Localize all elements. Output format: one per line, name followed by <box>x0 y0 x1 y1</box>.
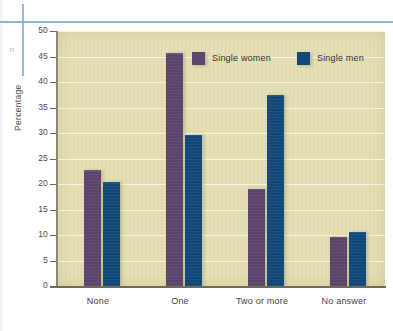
y-axis-title: Percentage <box>13 85 23 131</box>
y-axis-tick <box>50 159 56 160</box>
y-axis-tick-label: 50 <box>4 26 48 35</box>
y-axis-tick-label: 45 <box>4 52 48 61</box>
x-axis-label: One <box>139 296 221 306</box>
x-axis-label: No answer <box>303 296 385 306</box>
chart-legend: Single womenSingle men <box>192 48 364 68</box>
bar-single-women <box>330 237 347 286</box>
y-axis-tick-label: 30 <box>4 128 48 137</box>
y-axis-tick-labels: 05101520253035404550 <box>0 0 48 331</box>
legend-swatch-single-men <box>297 52 310 65</box>
y-axis-tick <box>50 31 56 32</box>
legend-label: Single women <box>212 53 271 63</box>
x-axis-label: Two or more <box>221 296 303 306</box>
legend-item: Single men <box>297 52 364 65</box>
y-axis-tick <box>50 235 56 236</box>
bar-single-men <box>349 232 366 286</box>
y-axis-tick-label: 40 <box>4 77 48 86</box>
y-axis-tick-label: 15 <box>4 205 48 214</box>
bar-single-men <box>185 135 202 286</box>
legend-swatch-single-women <box>192 52 205 65</box>
y-axis-tick <box>50 108 56 109</box>
y-axis-tick <box>50 184 56 185</box>
y-axis-tick <box>50 82 56 83</box>
y-axis-line <box>56 31 58 286</box>
legend-item: Single women <box>192 52 271 65</box>
bar-group <box>84 31 120 286</box>
bar-group <box>166 31 202 286</box>
bar-single-women <box>248 189 265 286</box>
bar-chart: 05101520253035404550 Percentage NoneOneT… <box>0 0 393 331</box>
x-axis-line <box>50 286 386 288</box>
x-axis-label: None <box>57 296 139 306</box>
bar-single-men <box>103 182 120 286</box>
bar-single-men <box>267 95 284 286</box>
bar-single-women <box>84 170 101 286</box>
y-axis-tick-label: 20 <box>4 179 48 188</box>
y-axis-tick-label: 35 <box>4 103 48 112</box>
bar-group <box>330 31 366 286</box>
bar-single-women <box>166 53 183 286</box>
y-axis-tick-label: 5 <box>4 256 48 265</box>
y-axis-tick <box>50 286 56 287</box>
plot-area <box>57 31 385 286</box>
y-axis-tick <box>50 210 56 211</box>
y-axis-tick-label: 25 <box>4 154 48 163</box>
y-axis-tick-label: 10 <box>4 230 48 239</box>
bar-group <box>248 31 284 286</box>
legend-label: Single men <box>317 53 364 63</box>
y-axis-tick <box>50 133 56 134</box>
y-axis-tick <box>50 57 56 58</box>
y-axis-tick <box>50 261 56 262</box>
y-axis-tick-label: 0 <box>4 281 48 290</box>
